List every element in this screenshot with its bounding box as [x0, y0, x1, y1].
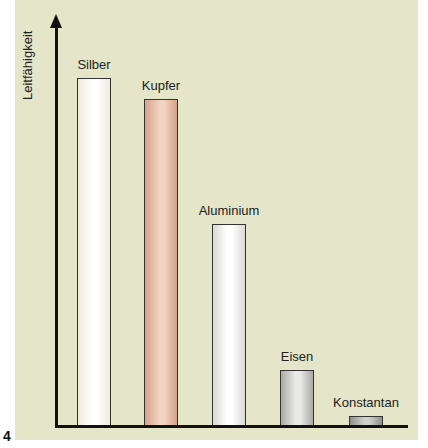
bar-label: Aluminium	[199, 203, 260, 218]
bar-label: Kupfer	[142, 78, 180, 93]
figure-number: 4	[3, 428, 11, 444]
bar-label: Konstantan	[333, 395, 399, 410]
bar-label: Eisen	[281, 349, 314, 364]
bar-silber	[77, 78, 111, 426]
bar-eisen	[280, 370, 314, 426]
bar-aluminium	[212, 224, 246, 426]
bar-label: Silber	[77, 57, 110, 72]
x-axis	[55, 425, 408, 428]
y-axis	[55, 24, 58, 428]
bar-kupfer	[144, 99, 178, 426]
y-axis-label: Leitfähigkeit	[20, 31, 35, 100]
